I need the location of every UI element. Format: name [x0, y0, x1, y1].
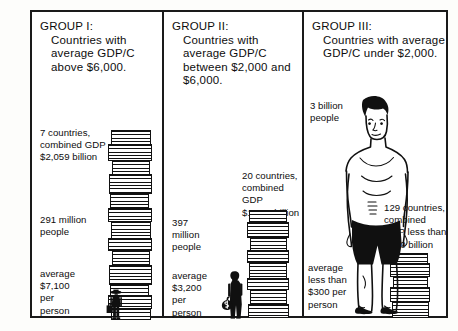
group-1-description: Countries with average GDP/C above $6,00…: [40, 34, 158, 75]
woman-with-money-bag-figure: [218, 270, 252, 319]
group-3-title: GROUP III: Countries with average GDP/C …: [312, 20, 446, 61]
panel-group-2: GROUP II: Countries with average GDP/C b…: [164, 12, 302, 316]
infographic-canvas: GROUP I: Countries with average GDP/C ab…: [0, 0, 458, 331]
group-1-gdp-label: 7 countries, combined GDP $2,059 billion: [40, 127, 106, 164]
group-2-name: GROUP II:: [172, 20, 298, 34]
group-1-population-label: 291 million people: [40, 214, 86, 238]
emaciated-standing-person-figure: [330, 94, 416, 318]
group-1-title: GROUP I: Countries with average GDP/C ab…: [40, 20, 158, 74]
group-1-average-label: average $7,100 per person: [40, 268, 75, 317]
group-2-average-label: average $3,200 per person: [172, 270, 207, 319]
group-2-gdp-coin-stack: [247, 210, 289, 318]
panel-group-3: GROUP III: Countries with average GDP/C …: [304, 12, 450, 316]
group-3-name: GROUP III:: [312, 20, 446, 34]
group-2-description: Countries with average GDP/C between $2,…: [172, 34, 298, 88]
group-3-description: Countries with average GDP/C under $2,00…: [312, 34, 446, 61]
chart-frame: GROUP I: Countries with average GDP/C ab…: [30, 10, 448, 318]
businessman-with-briefcase-figure: [104, 289, 128, 320]
group-2-title: GROUP II: Countries with average GDP/C b…: [172, 20, 298, 88]
group-1-name: GROUP I:: [40, 20, 158, 34]
group-2-population-label: 397 million people: [172, 217, 201, 254]
panel-group-1: GROUP I: Countries with average GDP/C ab…: [32, 12, 162, 316]
